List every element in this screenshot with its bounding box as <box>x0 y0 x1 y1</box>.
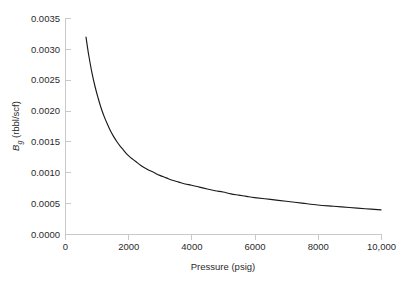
chart-background <box>0 0 407 283</box>
y-tick-label: 0.0035 <box>31 13 60 24</box>
x-axis-title: Pressure (psig) <box>191 261 255 272</box>
y-tick-label: 0.0005 <box>31 198 60 209</box>
y-tick-label: 0.0025 <box>31 74 60 85</box>
y-tick-label: 0.0015 <box>31 136 60 147</box>
x-tick-label: 8000 <box>308 241 329 252</box>
y-tick-label: 0.0000 <box>31 229 60 240</box>
bg-vs-pressure-chart: 0.0000 0.0005 0.0010 0.0015 0.0020 0.002… <box>0 0 407 283</box>
y-axis-title-units: (rbbl/scf) <box>10 101 21 141</box>
y-tick-label: 0.0030 <box>31 44 60 55</box>
x-tick-label: 0 <box>63 241 68 252</box>
x-tick-label: 10,000 <box>367 241 396 252</box>
x-tick-label: 4000 <box>181 241 202 252</box>
x-tick-label: 6000 <box>245 241 266 252</box>
x-tick-label: 2000 <box>118 241 139 252</box>
y-tick-label: 0.0020 <box>31 105 60 116</box>
chart-figure: 0.0000 0.0005 0.0010 0.0015 0.0020 0.002… <box>0 0 407 283</box>
y-tick-label: 0.0010 <box>31 167 60 178</box>
